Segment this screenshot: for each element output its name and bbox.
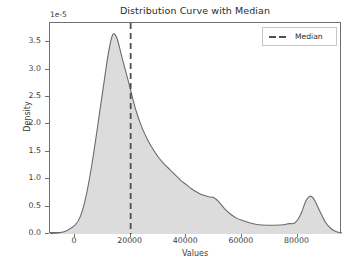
y-axis-tick-label: 3.5 (0, 36, 41, 45)
y-axis-tick-label: 0.0 (0, 228, 41, 237)
y-axis-tick-label: 0.5 (0, 201, 41, 210)
y-axis-tick-label: 1.0 (0, 173, 41, 182)
x-axis-tick-label: 80000 (267, 236, 327, 245)
plot-area (49, 22, 341, 233)
y-axis-tick-label: 1.5 (0, 146, 41, 155)
x-axis-tick-label: 20000 (100, 236, 160, 245)
x-axis-tick-label: 40000 (155, 236, 215, 245)
legend-entry-label: Median (295, 32, 323, 41)
chart-figure: Distribution Curve with Median 1e-5 Dens… (0, 0, 352, 266)
y-axis-tick-label: 2.5 (0, 91, 41, 100)
y-axis-offset-text: 1e-5 (50, 10, 67, 19)
median-dashed-line-icon (269, 32, 289, 41)
x-axis-label: Values (49, 249, 341, 258)
y-axis-tick-mark (45, 233, 49, 234)
x-axis-tick-label: 0 (44, 236, 104, 245)
chart-legend: Median (262, 27, 337, 46)
density-curve-svg (50, 23, 342, 234)
density-area-fill (50, 34, 342, 234)
y-axis-tick-label: 3.0 (0, 64, 41, 73)
chart-title: Distribution Curve with Median (49, 5, 341, 16)
x-axis-tick-label: 60000 (211, 236, 271, 245)
y-axis-tick-label: 2.0 (0, 118, 41, 127)
